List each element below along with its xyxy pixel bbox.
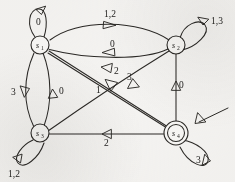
- transition-path-s1-s3: [26, 53, 34, 126]
- self-loop-label-s1: 0: [36, 17, 41, 27]
- arrowhead-self-loop-s1: [36, 7, 46, 15]
- start-arrow: [195, 108, 228, 124]
- state-label-s1: s: [36, 41, 39, 50]
- state-node-s4[interactable]: s 4: [164, 121, 188, 145]
- edge-label-s1-s3: 3: [11, 87, 16, 97]
- state-subscript-s4: 4: [177, 133, 180, 139]
- transition-path-s3-s1: [43, 53, 50, 126]
- state-subscript-s1: 1: [41, 45, 44, 51]
- transition-s3-s1: [43, 53, 58, 126]
- state-circle-s1: [31, 36, 49, 54]
- edge-label-s4-s2: 0: [179, 80, 184, 90]
- edge-label-s3-s1: 0: [59, 86, 64, 96]
- state-circle-s3: [31, 124, 49, 142]
- state-label-s4: s: [172, 129, 175, 138]
- arrowhead-s2-s1: [102, 48, 115, 55]
- self-loop-label-s4: 3: [196, 155, 201, 165]
- edge-label-s4-s3: 2: [104, 138, 109, 148]
- arrowhead-s1-s2: [103, 22, 116, 29]
- state-node-s3[interactable]: s 3: [31, 124, 49, 142]
- transition-s1-s3: [21, 53, 35, 126]
- state-node-s1[interactable]: s 1: [31, 36, 49, 54]
- self-loop-path-s4: [180, 140, 208, 165]
- edge-label-s2-s1: 0: [110, 39, 115, 49]
- edge-label-s2-s3: 3: [127, 72, 132, 82]
- edge-label-s4-s1: 2: [114, 66, 119, 76]
- arrowhead-s4-s1: [101, 64, 112, 73]
- state-label-s2: s: [172, 41, 175, 50]
- state-label-s3: s: [36, 129, 39, 138]
- state-circle-s2: [167, 36, 185, 54]
- arrowhead-self-loop-s4: [203, 155, 211, 166]
- transition-s1-s2: [50, 22, 169, 41]
- transition-s2-s1: [50, 48, 169, 57]
- edge-label-s1-s4: 1: [96, 85, 101, 95]
- self-loop-label-s2: 1,3: [211, 16, 223, 26]
- diagram-canvas: s 1 s 2 s 3 s 4 1,2 0 3 0 0 2 2 1: [0, 0, 235, 182]
- state-subscript-s3: 3: [41, 133, 44, 139]
- state-node-s2[interactable]: s 2: [167, 36, 185, 54]
- self-loop-s3: [13, 140, 44, 165]
- self-loop-label-s3: 1,2: [8, 169, 20, 179]
- state-subscript-s2: 2: [177, 45, 180, 51]
- edge-label-s1-s2: 1,2: [104, 9, 116, 19]
- state-diagram-svg: s 1 s 2 s 3 s 4 1,2 0 3 0 0 2 2 1: [0, 0, 235, 182]
- arrowhead-s1-s3: [21, 86, 30, 97]
